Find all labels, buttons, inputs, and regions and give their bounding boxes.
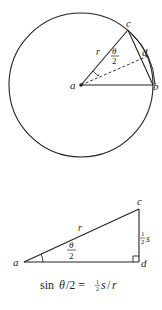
angle-theta: θ	[112, 46, 117, 56]
tri-angle-two: 2	[69, 251, 74, 261]
label-d: d	[142, 46, 148, 58]
top-figure: a b c d r θ 2	[9, 13, 159, 157]
bottom-figure: a c d r θ 2 1 2 s	[13, 195, 150, 269]
label-c: c	[126, 17, 131, 29]
eq-frac-num: 1	[96, 279, 99, 285]
label-a: a	[70, 79, 76, 91]
diagram-canvas: a b c d r θ 2 a c d r θ 2 1 2 s sin θ /2…	[0, 0, 162, 310]
tri-label-d: d	[141, 257, 147, 269]
eq-slash: /	[107, 278, 111, 292]
eq-middle: /2 =	[66, 278, 88, 292]
right-angle-square	[133, 256, 139, 262]
tri-label-a: a	[13, 256, 19, 268]
tri-angle-theta: θ	[69, 240, 74, 250]
eq-sin: sin	[40, 278, 57, 292]
angle-two: 2	[112, 56, 117, 66]
tri-label-c: c	[137, 195, 142, 207]
label-b: b	[153, 80, 159, 92]
radius-ac	[81, 30, 128, 85]
half-s: s	[146, 233, 150, 244]
eq-s: s	[101, 278, 106, 292]
half-num: 1	[141, 230, 145, 238]
right-angle-mark	[93, 71, 99, 76]
eq-r: r	[112, 278, 117, 292]
eq-frac-den: 2	[96, 286, 99, 292]
tri-label-r: r	[78, 222, 82, 233]
half-den: 2	[141, 238, 145, 246]
eq-theta: θ	[59, 278, 65, 292]
angle-arc	[41, 254, 43, 262]
equation: sin θ /2 = 1 2 s / r	[40, 278, 117, 292]
label-r: r	[96, 46, 100, 57]
center-point-a	[79, 83, 83, 87]
